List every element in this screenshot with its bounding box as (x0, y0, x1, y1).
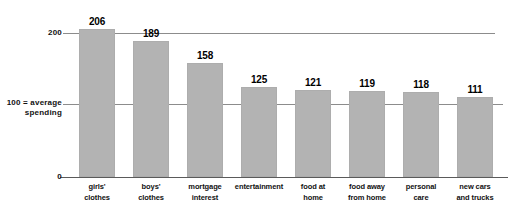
category-label: personalcare (394, 182, 448, 203)
bar-chart: 200 100 = average spending 0 206girls'cl… (0, 0, 511, 220)
category-label-line: care (394, 193, 448, 204)
bar-slot: 125entertainment (232, 0, 286, 177)
bar-value-label: 111 (448, 84, 502, 95)
bar-slot: 158mortgageinterest (178, 0, 232, 177)
bar-slot: 111new carsand trucks (448, 0, 502, 177)
category-label: food athome (286, 182, 340, 203)
bar[interactable] (403, 92, 439, 177)
bar-slot: 189boys'clothes (124, 0, 178, 177)
bar-slot: 118personalcare (394, 0, 448, 177)
category-label-line: boys' (124, 182, 178, 193)
y-axis-tick-100-line2: spending (0, 108, 62, 118)
bar[interactable] (133, 41, 169, 177)
category-label-line: clothes (124, 193, 178, 204)
bar-slot: 119food awayfrom home (340, 0, 394, 177)
category-label: boys'clothes (124, 182, 178, 203)
category-label-line: personal (394, 182, 448, 193)
bar-series: 206girls'clothes189boys'clothes158mortga… (70, 0, 505, 220)
category-label: food awayfrom home (340, 182, 394, 203)
category-label-line: and trucks (448, 193, 502, 204)
y-axis-tick-200: 200 (0, 28, 62, 38)
category-label-line: interest (178, 193, 232, 204)
bar-value-label: 121 (286, 77, 340, 88)
category-label-line: girls' (70, 182, 124, 193)
bar-value-label: 125 (232, 74, 286, 85)
category-label: entertainment (232, 182, 286, 193)
category-label-line: food away (340, 182, 394, 193)
y-axis-tick-100: 100 = average spending (0, 98, 62, 118)
bar[interactable] (241, 87, 277, 177)
category-label-line: entertainment (232, 182, 286, 193)
category-label: new carsand trucks (448, 182, 502, 203)
category-label-line: home (286, 193, 340, 204)
category-label: girls'clothes (70, 182, 124, 203)
bar[interactable] (295, 90, 331, 177)
bar-value-label: 158 (178, 50, 232, 61)
bar[interactable] (187, 63, 223, 177)
bar[interactable] (457, 97, 493, 177)
y-axis-tick-100-line1: 100 = average (7, 98, 62, 107)
bar-slot: 206girls'clothes (70, 0, 124, 177)
y-axis-tick-0: 0 (0, 172, 62, 182)
category-label-line: food at (286, 182, 340, 193)
bar-slot: 121food athome (286, 0, 340, 177)
category-label-line: from home (340, 193, 394, 204)
bar-value-label: 118 (394, 79, 448, 90)
category-label-line: mortgage (178, 182, 232, 193)
category-label: mortgageinterest (178, 182, 232, 203)
bar[interactable] (79, 29, 115, 177)
category-label-line: clothes (70, 193, 124, 204)
bar-value-label: 189 (124, 28, 178, 39)
category-label-line: new cars (448, 182, 502, 193)
bar[interactable] (349, 91, 385, 177)
bar-value-label: 119 (340, 78, 394, 89)
bar-value-label: 206 (70, 16, 124, 27)
